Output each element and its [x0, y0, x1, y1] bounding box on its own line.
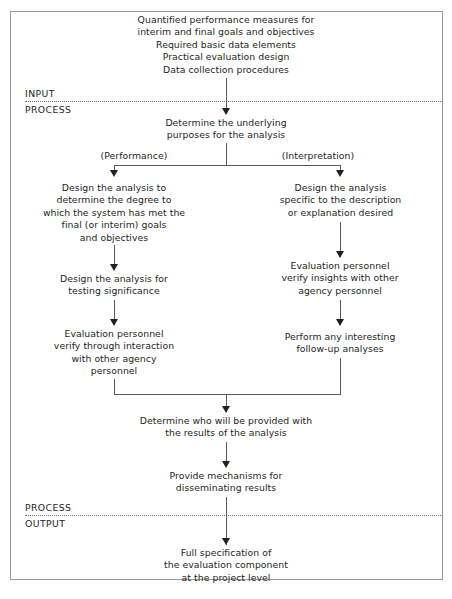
node-left-design-analysis: Design the analysis to determine the deg…	[29, 182, 199, 244]
node-right-follow-up: Perform any interesting follow-up analys…	[265, 331, 415, 356]
node-determine-purposes: Determine the underlying purposes for th…	[146, 117, 306, 142]
connector-merge-bar	[114, 394, 341, 395]
node-right-verify-insights: Evaluation personnel verify insights wit…	[262, 260, 418, 297]
zone-label-output: OUTPUT	[25, 518, 65, 529]
arrowhead-left-testing-to-verify	[110, 319, 118, 326]
node-left-testing-significance: Design the analysis for testing signific…	[39, 273, 189, 298]
arrowhead-left-design-to-testing	[110, 264, 118, 271]
zone-label-input: INPUT	[25, 88, 55, 99]
arrowhead-determine-who-to-provide	[222, 461, 230, 468]
arrowhead-right-verify-to-followup	[336, 319, 344, 326]
node-right-design-analysis: Design the analysis specific to the desc…	[258, 182, 423, 219]
divider-process-output	[25, 515, 443, 516]
zone-label-process-top: PROCESS	[25, 104, 71, 115]
arrowhead-merge-to-determine-who	[222, 406, 230, 413]
arrowhead-split-to-left	[110, 170, 118, 177]
arrowhead-right-design-to-verify	[336, 251, 344, 258]
label-branch-performance: (Performance)	[74, 150, 194, 162]
zone-label-process-bottom: PROCESS	[25, 502, 71, 513]
flowchart-figure: Quantified performance measures for inte…	[0, 0, 452, 599]
connector-purposes-to-split	[226, 143, 227, 165]
node-output-block: Full specification of the evaluation com…	[146, 547, 306, 584]
node-input-block: Quantified performance measures for inte…	[126, 14, 326, 76]
arrowhead-provide-to-output	[222, 538, 230, 545]
connector-left-to-merge	[114, 379, 115, 394]
arrowhead-split-to-right	[336, 170, 344, 177]
arrowhead-input-to-process	[222, 108, 230, 115]
connector-right-to-merge	[340, 358, 341, 394]
node-determine-who: Determine who will be provided with the …	[116, 415, 336, 440]
divider-input-process	[25, 101, 443, 102]
node-provide-mechanisms: Provide mechanisms for disseminating res…	[146, 470, 306, 495]
label-branch-interpretation: (Interpretation)	[253, 150, 383, 162]
node-left-verify-interaction: Evaluation personnel verify through inte…	[34, 328, 194, 378]
connector-split-bar	[114, 165, 341, 166]
